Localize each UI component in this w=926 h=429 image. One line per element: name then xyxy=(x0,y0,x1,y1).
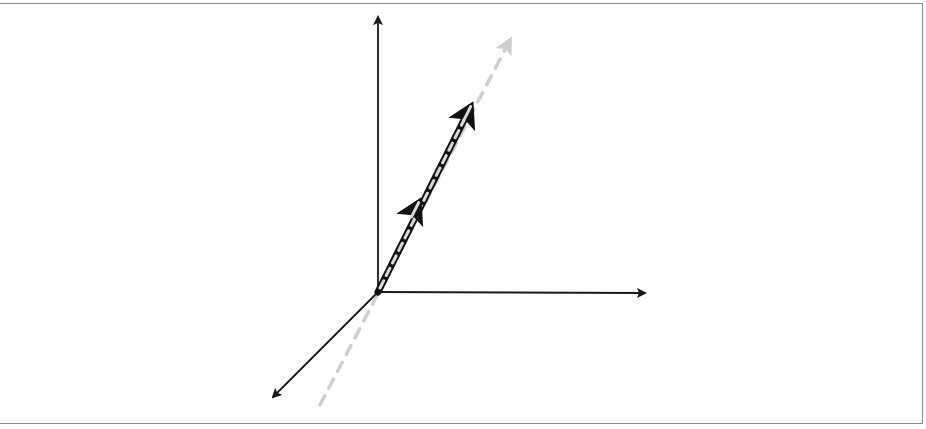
horizontal-axis xyxy=(378,292,645,293)
vector-arrowhead-top xyxy=(448,95,486,132)
axes-diagram xyxy=(0,0,926,429)
vector xyxy=(378,108,470,292)
depth-axis xyxy=(273,292,378,397)
